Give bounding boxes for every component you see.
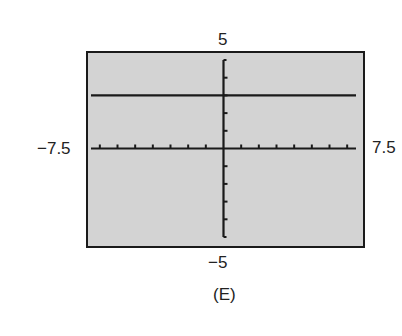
ymax-label: 5: [218, 31, 227, 48]
graph-plot: [0, 0, 402, 336]
panel-label: (E): [213, 286, 236, 303]
ymin-label: −5: [208, 254, 227, 271]
axes: [91, 60, 356, 237]
xmin-label: −7.5: [37, 140, 71, 157]
xmax-label: 7.5: [372, 139, 396, 156]
